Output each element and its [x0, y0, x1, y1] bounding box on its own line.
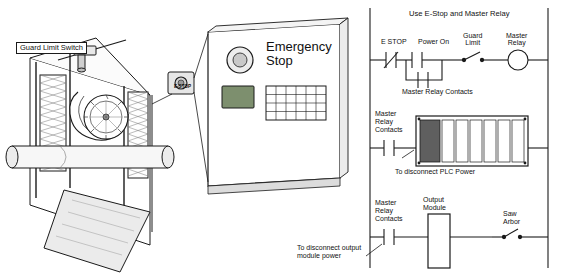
output-module-box: [428, 214, 450, 268]
plc-power-leader: [402, 150, 414, 158]
e-stop-button-label: E-STOP: [174, 85, 191, 90]
to-disconnect-plc-power-label: To disconnect PLC Power: [395, 168, 475, 175]
output-module-label: Output Module: [423, 196, 446, 212]
saw-blade: [84, 95, 128, 139]
guard-limit-switch-label: Guard Limit Switch: [16, 42, 87, 54]
power-on-label: Power On: [418, 38, 449, 45]
workpiece-log: [6, 146, 174, 168]
emergency-stop-label: Emergency Stop: [266, 40, 332, 67]
output-module-power-leader: [366, 244, 382, 256]
master-relay-coil: [508, 50, 528, 70]
plc-rack: [416, 116, 528, 166]
cabinet-keypad: [266, 86, 326, 120]
master-relay-contacts-3-symbol: [384, 229, 394, 245]
master-relay-label: Master Relay: [506, 32, 527, 47]
cabinet-display: [222, 86, 254, 108]
e-stop-contact: [384, 52, 398, 68]
e-stop-label: E STOP: [381, 38, 407, 45]
master-relay-contacts-3-label: Master Relay Contacts: [375, 199, 403, 222]
ladder-title: Use E-Stop and Master Relay: [409, 10, 509, 18]
master-relay-contacts-2-symbol: [384, 140, 394, 156]
seal-in-branch: [406, 60, 442, 88]
master-relay-contacts-label: Master Relay Contacts: [402, 88, 473, 95]
to-disconnect-output-module-power-label: To disconnect output module power: [297, 244, 361, 260]
guard-limit-contact: [448, 52, 498, 62]
power-on-contact: [412, 52, 422, 68]
master-relay-contacts-2-label: Master Relay Contacts: [375, 110, 403, 133]
figure-canvas: Guard Limit Switch E-STOP Emergency Stop: [0, 0, 568, 275]
callout-line-bottom: [194, 92, 208, 182]
callout-line-top: [194, 34, 208, 78]
saw-arbor-label: Saw Arbor: [503, 210, 520, 226]
saw-arbor-contact: [492, 229, 548, 239]
guard-limit-label: Guard Limit: [463, 32, 482, 47]
